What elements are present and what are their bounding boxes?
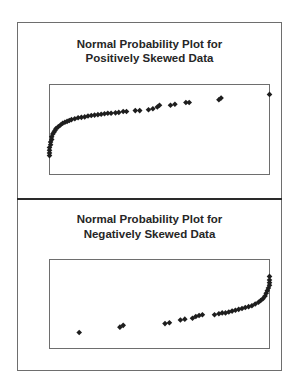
data-point-marker <box>116 110 122 116</box>
bottom-plot-markers <box>76 274 272 336</box>
bottom-plot-area <box>50 260 270 349</box>
data-point-marker <box>267 274 273 280</box>
data-point-marker <box>108 111 114 117</box>
data-point-marker <box>168 102 174 108</box>
top-plot-area <box>50 85 270 175</box>
data-point-marker <box>178 317 184 323</box>
data-point-marker <box>76 330 82 336</box>
data-point-marker <box>124 109 130 115</box>
data-point-marker <box>182 316 188 322</box>
data-point-marker <box>137 108 143 114</box>
top-plot-markers <box>47 92 273 159</box>
data-point-marker <box>162 321 168 327</box>
plots-canvas <box>0 0 301 391</box>
data-point-marker <box>267 92 273 98</box>
data-point-marker <box>146 107 152 113</box>
data-point-marker <box>167 320 173 326</box>
data-point-marker <box>212 312 218 318</box>
data-point-marker <box>186 100 192 106</box>
data-point-marker <box>172 102 178 108</box>
